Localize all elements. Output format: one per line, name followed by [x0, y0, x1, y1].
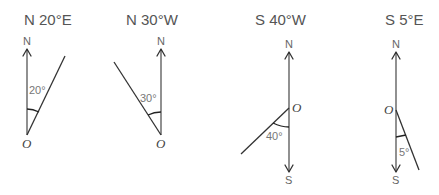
- bearing-title: S 40°W: [255, 11, 307, 28]
- north-label: N: [392, 38, 400, 50]
- origin-label: O: [384, 102, 394, 117]
- south-label: S: [285, 174, 292, 186]
- angle-arc: [273, 123, 289, 127]
- origin-label: O: [292, 100, 302, 115]
- diagram-n20e: N 20°E N 20° O: [22, 11, 72, 151]
- angle-arc: [27, 109, 39, 112]
- angle-label: 20°: [29, 84, 46, 96]
- bearing-title: N 30°W: [126, 11, 179, 28]
- angle-label: 40°: [266, 130, 283, 142]
- bearing-title: N 20°E: [24, 11, 72, 28]
- bearing-line: [396, 110, 419, 170]
- north-label: N: [157, 35, 165, 47]
- angle-label: 30°: [140, 92, 157, 104]
- angle-label: 5°: [399, 146, 410, 158]
- angle-arc: [396, 135, 406, 137]
- diagram-s40w: S 40°W N 40° O S: [241, 11, 307, 186]
- origin-label: O: [156, 136, 166, 151]
- bearings-figure: N 20°E N 20° O N 30°W N 30° O S 40°W N 4…: [0, 0, 439, 195]
- bearing-title: S 5°E: [385, 11, 424, 28]
- diagram-s5e: S 5°E N 5° O S: [384, 11, 424, 186]
- south-label: S: [392, 174, 399, 186]
- north-label: N: [285, 38, 293, 50]
- angle-arc: [148, 112, 161, 115]
- north-label: N: [23, 35, 31, 47]
- origin-label: O: [22, 136, 32, 151]
- diagram-n30w: N 30°W N 30° O: [114, 11, 179, 151]
